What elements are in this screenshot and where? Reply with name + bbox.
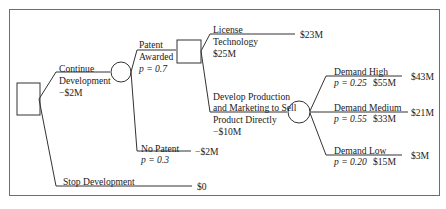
demand-high-payoff: $43M xyxy=(411,71,434,82)
branch-no-patent xyxy=(131,72,191,151)
develop-production-cost: −$10M xyxy=(213,126,241,137)
no-patent-prob: p = 0.3 xyxy=(141,154,169,165)
continue-development-label-2: Development xyxy=(59,75,111,86)
license-technology-label-2: Technology xyxy=(213,36,258,47)
patent-awarded-label-1: Patent xyxy=(139,39,163,50)
demand-low-value: $15M xyxy=(373,156,396,167)
patent-chance-node xyxy=(111,62,131,82)
demand-medium-value: $33M xyxy=(373,113,396,124)
demand-low-label: Demand Low xyxy=(334,145,387,156)
continue-development-cost: −$2M xyxy=(59,87,83,98)
demand-medium-label: Demand Medium xyxy=(334,102,401,113)
develop-production-label-2: and Marketing to Sell xyxy=(213,102,296,113)
no-patent-payoff: −$2M xyxy=(195,146,219,157)
license-technology-value: $25M xyxy=(213,48,236,59)
demand-medium-payoff: $21M xyxy=(411,107,434,118)
demand-medium-prob: p = 0.55 xyxy=(334,113,367,124)
license-technology-payoff: $23M xyxy=(300,29,323,40)
root-decision-node xyxy=(17,83,40,115)
demand-low-payoff: $3M xyxy=(411,150,429,161)
patent-awarded-label-2: Awarded xyxy=(139,51,173,62)
license-decision-node xyxy=(177,40,201,63)
stop-development-label: Stop Development xyxy=(63,176,135,187)
demand-low-prob: p = 0.20 xyxy=(334,156,367,167)
stop-development-payoff: $0 xyxy=(197,181,207,192)
license-technology-label-1: License xyxy=(213,24,243,35)
demand-high-label: Demand High xyxy=(334,66,388,77)
continue-development-label-1: Continue xyxy=(59,63,94,74)
no-patent-label: No Patent xyxy=(141,143,179,154)
demand-high-value: $55M xyxy=(373,77,396,88)
develop-production-label-1: Develop Production xyxy=(213,91,290,102)
patent-awarded-prob: p = 0.7 xyxy=(139,63,167,74)
demand-high-prob: p = 0.25 xyxy=(334,77,367,88)
develop-production-label-3: Product Directly xyxy=(213,114,277,125)
